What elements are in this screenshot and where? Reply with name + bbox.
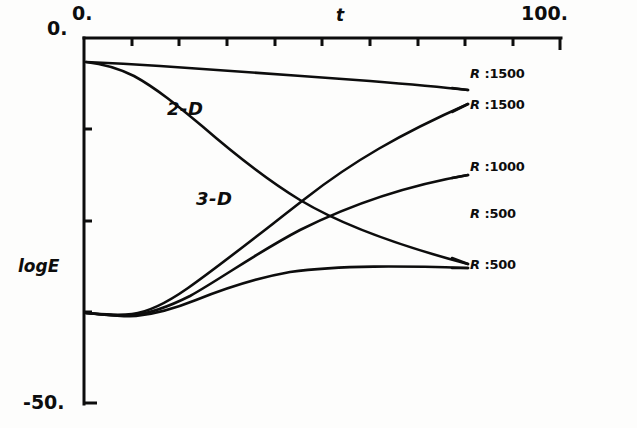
curve-2d-r500 [86, 62, 468, 264]
legend-leader-lines [452, 88, 468, 268]
leader-line-1 [452, 104, 468, 112]
series-value-2: 1000 [489, 159, 524, 174]
series-label-3: R :500 [470, 206, 516, 221]
region-label-2d: 2-D [167, 98, 203, 119]
plot-canvas [0, 0, 637, 428]
y-axis-title: logE [18, 256, 59, 276]
series-symbol-3: R [470, 206, 480, 221]
curve-3d-r1500 [86, 104, 468, 315]
chart-figure: 0. 100. t 0. -50. logE 2-D 3-D R :1500 R… [0, 0, 637, 428]
y-axis-min-label: -50. [23, 391, 65, 413]
series-label-4: R :500 [470, 257, 516, 272]
series-value-3: 500 [489, 206, 515, 221]
series-value-1: 1500 [489, 97, 524, 112]
series-symbol-4: R [470, 257, 480, 272]
leader-line-2 [452, 175, 468, 178]
series-value-0: 1500 [489, 66, 524, 81]
axes-group [84, 38, 561, 404]
series-value-4: 500 [489, 257, 515, 272]
series-symbol-0: R [470, 66, 480, 81]
series-symbol-2: R [470, 159, 480, 174]
curve-3d-r500 [86, 267, 468, 317]
x-axis-title: t [336, 5, 344, 25]
y-axis-max-label: 0. [47, 17, 67, 39]
x-axis-min-label: 0. [72, 2, 92, 24]
series-label-0: R :1500 [470, 66, 524, 81]
region-label-3d: 3-D [196, 188, 232, 209]
series-curves [86, 62, 468, 316]
x-axis-max-label: 100. [521, 2, 568, 24]
curve-3d-r1000 [86, 175, 468, 316]
series-label-2: R :1000 [470, 159, 524, 174]
series-label-1: R :1500 [470, 97, 524, 112]
series-symbol-1: R [470, 97, 480, 112]
curve-2d-r1500 [86, 62, 468, 90]
